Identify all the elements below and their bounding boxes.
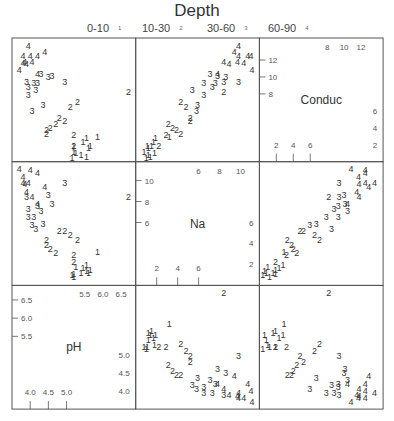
data-point: 2: [126, 87, 131, 97]
data-point: 4: [250, 397, 255, 407]
data-point: 3: [336, 379, 341, 389]
data-point: 3: [307, 220, 312, 230]
data-point: 1: [84, 266, 89, 276]
tick-label: 6: [249, 219, 254, 228]
data-point: 4: [215, 69, 220, 79]
tick-label: 8: [217, 167, 222, 176]
data-point: 4: [28, 165, 33, 175]
tick-label: 6: [308, 141, 313, 150]
data-point: 4: [28, 51, 33, 61]
data-point: 2: [164, 130, 169, 140]
data-point: 4: [22, 179, 27, 189]
tick-label: 6.5: [116, 290, 128, 299]
data-point: 2: [156, 342, 161, 352]
data-point: 4: [22, 57, 27, 67]
tick-label: 5.5: [79, 290, 91, 299]
data-point: 3: [236, 77, 241, 87]
diagonal-label-Na: Na: [190, 217, 206, 231]
tick-label: 12: [268, 56, 277, 65]
data-point: 1: [262, 330, 267, 340]
data-point: 3: [324, 212, 329, 222]
data-point: 4: [372, 388, 377, 398]
data-point: 2: [71, 141, 76, 151]
data-point: 2: [62, 226, 67, 236]
data-point: 3: [30, 220, 35, 230]
data-point: 4: [363, 386, 368, 396]
data-point: 1: [79, 268, 84, 278]
data-point: 1: [95, 247, 100, 257]
data-point: 2: [188, 113, 193, 123]
data-point: 2: [285, 235, 290, 245]
tick-label: 4: [291, 141, 296, 150]
tick-label: 2: [249, 260, 254, 269]
data-point: 1: [260, 344, 265, 354]
data-point: 2: [75, 235, 80, 245]
tick-label: 2: [154, 264, 159, 273]
data-point: 4: [348, 397, 353, 407]
data-point: 2: [156, 141, 161, 151]
data-point: 3: [337, 178, 342, 188]
data-point: 2: [284, 250, 289, 260]
tick-label: 4: [373, 124, 378, 133]
data-point: 4: [30, 192, 35, 202]
data-point: 2: [301, 226, 306, 236]
tick-label: 4: [175, 264, 180, 273]
data-point: 2: [273, 257, 278, 267]
data-point: 4: [35, 51, 40, 61]
data-point: 2: [44, 235, 49, 245]
data-point: 3: [337, 351, 342, 361]
data-point: 3: [35, 78, 40, 88]
data-point: 4: [345, 379, 350, 389]
data-point: 1: [270, 328, 275, 338]
tick-label: 2: [373, 141, 378, 150]
data-point: 4: [372, 178, 377, 188]
data-point: 1: [144, 344, 149, 354]
tick-label: 4: [249, 239, 254, 248]
diagonal-label-Conduc: Conduc: [301, 93, 342, 107]
data-point: 4: [235, 391, 240, 401]
tick-label: 8: [325, 43, 330, 52]
tick-label: 10: [340, 43, 349, 52]
tick-label: 4.5: [119, 369, 131, 378]
data-point: 4: [17, 65, 22, 75]
data-point: 1: [80, 137, 85, 147]
tick-label: 6: [196, 167, 201, 176]
data-point: 2: [164, 342, 169, 352]
data-point: 1: [84, 152, 89, 162]
data-point: 2: [184, 102, 189, 112]
data-point: 4: [356, 179, 361, 189]
scatterplot-matrix: 1111111111122222222222333333333333444444…: [0, 0, 394, 421]
diagonal-label-pH: pH: [66, 340, 81, 354]
data-point: 2: [312, 230, 317, 240]
tick-label: 2: [274, 141, 279, 150]
tick-label: 5.0: [119, 351, 131, 360]
data-point: 4: [221, 384, 226, 394]
data-point: 4: [356, 391, 361, 401]
tick-label: 8: [268, 90, 273, 99]
data-point: 3: [24, 77, 29, 87]
data-point: 2: [126, 192, 131, 202]
data-point: 2: [68, 102, 73, 112]
data-point: 3: [307, 384, 312, 394]
data-point: 4: [35, 168, 40, 178]
data-point: 4: [348, 164, 353, 174]
data-point: 4: [249, 51, 254, 61]
data-point: 4: [241, 393, 246, 403]
data-point: 2: [326, 288, 331, 298]
data-point: 2: [178, 129, 183, 139]
tick-label: 6.5: [21, 296, 33, 305]
data-point: 3: [336, 201, 341, 211]
data-point: 2: [284, 342, 289, 352]
data-point: 1: [265, 340, 270, 350]
data-point: 1: [260, 270, 265, 280]
data-point: 4: [226, 59, 231, 69]
tick-label: 6: [196, 264, 201, 273]
data-point: 2: [71, 130, 76, 140]
data-point: 3: [329, 224, 334, 234]
tick-label: 10: [236, 167, 245, 176]
data-point: 4: [356, 192, 361, 202]
data-point: 3: [201, 78, 206, 88]
data-point: 2: [326, 192, 331, 202]
data-point: 3: [213, 78, 218, 88]
data-point: 2: [188, 357, 193, 367]
